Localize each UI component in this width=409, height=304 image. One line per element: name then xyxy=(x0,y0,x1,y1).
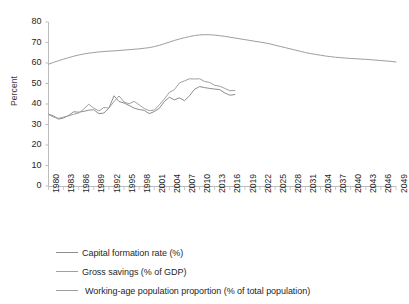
x-tick-label: 2034 xyxy=(324,174,333,193)
x-tick-label: 1998 xyxy=(143,174,152,193)
x-tick-label: 2031 xyxy=(309,174,318,193)
x-tick-label: 2049 xyxy=(400,174,409,193)
axis-lines xyxy=(49,22,397,187)
x-tick-label: 2037 xyxy=(339,174,348,193)
legend-label-working-age: Working-age population proportion (% of … xyxy=(85,286,310,296)
x-tick-label: 2010 xyxy=(203,174,212,193)
legend-label-gross-savings: Gross savings (% of GDP) xyxy=(82,267,186,277)
x-tick-label: 2004 xyxy=(173,174,182,193)
x-tick-label: 1995 xyxy=(128,174,137,193)
x-tick-label: 1989 xyxy=(97,174,106,193)
legend-label-capital-formation: Capital formation rate (%) xyxy=(82,248,183,258)
x-tick-label: 1980 xyxy=(52,174,61,193)
line-chart: Percent 01020304050607080 19801983198619… xyxy=(0,0,404,240)
x-tick-label: 2043 xyxy=(369,174,378,193)
y-tick-label: 50 xyxy=(16,79,42,88)
x-tick-label: 2040 xyxy=(354,174,363,193)
y-axis-title: Percent xyxy=(9,61,19,121)
y-tick-label: 70 xyxy=(16,38,42,47)
x-tick-label: 2025 xyxy=(279,174,288,193)
x-tick-label: 2046 xyxy=(384,174,393,193)
legend-item-working-age: Working-age population proportion (% of … xyxy=(0,281,404,300)
legend-swatch-gross-savings xyxy=(56,271,78,272)
y-tick-label: 0 xyxy=(16,181,42,190)
y-tick-label: 30 xyxy=(16,120,42,129)
x-tick-label: 2016 xyxy=(233,174,242,193)
x-tick-label: 2013 xyxy=(218,174,227,193)
chart-legend: Capital formation rate (%) Gross savings… xyxy=(0,243,404,300)
x-tick-label: 2019 xyxy=(249,174,258,193)
series-line xyxy=(49,87,235,120)
legend-swatch-capital-formation xyxy=(56,252,78,253)
legend-swatch-working-age xyxy=(56,290,78,291)
y-tick-label: 60 xyxy=(16,58,42,67)
x-tick-label: 1992 xyxy=(113,174,122,193)
y-tick-label: 10 xyxy=(16,161,42,170)
y-tick-label: 80 xyxy=(16,17,42,26)
x-tick-label: 2028 xyxy=(294,174,303,193)
legend-item-capital-formation: Capital formation rate (%) xyxy=(0,243,404,262)
x-tick-label: 1986 xyxy=(82,174,91,193)
y-tick-label: 20 xyxy=(16,140,42,149)
y-tick-label: 40 xyxy=(16,99,42,108)
data-series xyxy=(49,35,397,119)
x-tick-label: 2001 xyxy=(158,174,167,193)
x-tick-label: 2007 xyxy=(188,174,197,193)
series-line xyxy=(49,35,397,65)
x-tick-label: 2022 xyxy=(264,174,273,193)
legend-item-gross-savings: Gross savings (% of GDP) xyxy=(0,262,404,281)
x-tick-label: 1983 xyxy=(67,174,76,193)
plot-canvas xyxy=(0,0,404,240)
